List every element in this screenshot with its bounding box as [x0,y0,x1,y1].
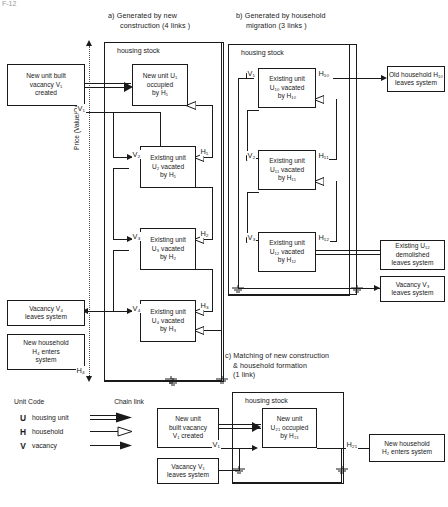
panel-c-housing-stock-label: housing stock [243,397,290,404]
panel-b-outer-rail-top [228,44,357,45]
box-line: U₃ vacated [152,245,184,253]
box-a-new-unit-built: New unit built vacancy V₁ created [7,64,85,106]
legend-label-u: housing unit [32,414,90,421]
box-line: leaves system [25,313,67,321]
line-c-h21-right [317,448,369,449]
label-b-v2: V₂ [247,151,256,160]
box-line: Old household H₁₀ [389,71,443,79]
line-b-v2-rail-h1 [247,110,259,111]
box-b-u12: Existing unit U₁₂ vacated by H₁₂ [258,232,316,272]
box-b-old-household: Old household H₁₀ leaves system [387,66,445,92]
box-line: Vacancy V₁ [171,463,204,471]
box-a-u3: Existing unit U₃ vacated by H₂ [140,228,196,270]
panel-b-title-line1: b) Generated by household [236,11,386,21]
label-b-h12: H₁₂ [318,233,330,242]
legend-unit-code-header: Unit Code [14,398,44,405]
box-b-u11: Existing unit U₁₁ vacated by H₁₁ [258,150,316,190]
panel-b-title: b) Generated by household migration (3 l… [236,11,386,30]
legend-row-u: U housing unit [14,412,154,423]
line-c-h21-down [341,448,342,482]
line-a-h2-h-top [196,187,213,188]
legend-row-h: H household [14,426,154,437]
box-line: by H₃ [160,325,176,333]
box-line: Existing unit [269,239,305,247]
box-line: Vacancy V₄ [29,305,63,313]
label-c-v1: V₁ [212,440,220,449]
box-line: U₂₁ occupied [271,424,309,432]
line-a-h2-h-bot [203,239,213,240]
box-line: New unit built [26,72,66,80]
link-b-u12-demolished [316,250,380,255]
line-a-rail1 [113,112,114,158]
label-b-v3: V₃ [247,233,256,242]
arrow-c-v1-right-icon [252,445,258,451]
box-a-new-household: New household H₄ enters system [7,334,85,370]
panel-c-title-line1: c) Matching of new construction [225,351,405,361]
box-line: U₄ vacated [152,317,184,325]
price-axis-arrow-icon [86,40,92,46]
legend-code-h: H [14,427,32,437]
box-line: U₂ vacated [152,163,184,171]
arrow-c-unit-to-u21-icon [252,422,261,432]
legend-code-u: U [14,413,32,423]
line-b-h11-chain [336,181,337,241]
box-line: New unit [175,415,201,423]
box-line: Vacancy V₃ [396,281,430,289]
box-line: Existing unit [150,236,186,244]
line-a-h3-h-bot [203,311,213,312]
label-a-h2: H₂ [200,229,209,238]
price-axis-dotted-line [89,46,90,380]
box-line: H₄ enters [32,348,60,356]
label-a-v4: V₄ [132,304,141,313]
legend-solid-arrow-icon [90,440,134,451]
label-c-h21: H₂₁ [346,440,358,449]
box-line: by H₁ [160,171,176,179]
figure-corner-mark: F-12 [2,0,16,7]
box-line: by H₁₂ [278,256,296,264]
box-line: leaves system [167,471,209,479]
line-a-h3-h-top [196,269,213,270]
box-line: New household [384,440,429,448]
box-line: Existing unit [269,75,305,83]
line-a-h4-into-u4 [203,330,222,331]
legend-hollow-arrow-icon [90,426,134,437]
box-line: U₁₁ vacated [270,166,304,174]
box-b-demolished: Existing U₁₂ demolished leaves system [380,240,445,270]
box-line: New household [23,339,68,347]
box-line: leaves system [392,289,434,297]
box-line: created [35,89,57,97]
box-line: system [36,356,57,364]
line-a-v1-right [86,112,160,113]
panel-c-title-line3: (1 link) [225,370,405,380]
label-b-h11: H₁₁ [318,151,329,160]
box-line: H₂ enters system [382,448,432,456]
line-a-u2-v3-down [113,168,114,240]
label-a-v2: V₂ [132,150,141,159]
ground-symbol-b2-icon [349,285,365,294]
box-b-u10: Existing unit U₁₀ vacated by H₁₀ [258,68,316,108]
panel-a-title-line2: construction (4 links ) [108,21,228,31]
box-line: by H₁ [152,89,168,97]
ground-symbol-c3-icon [165,378,181,387]
legend-row-v: V vacancy [14,440,154,451]
box-line: Existing unit [269,157,305,165]
box-line: by H₂₁ [280,432,298,440]
legend-code-v: V [14,441,32,451]
box-line: U₁₂ vacated [270,248,304,256]
box-c-new-household: New household H₂ enters system [369,434,445,462]
legend-label-v: vacancy [32,442,90,449]
box-line: vacancy V₁ [30,81,63,89]
box-c-new-unit-built: New unit built vacancy V₁ created [157,408,219,448]
line-b-v3-rail-h1 [247,192,259,193]
box-line: demolished [396,251,430,259]
box-line: Existing U₁₂ [395,242,429,250]
box-line: Existing unit [150,308,186,316]
box-line: leaves system [395,79,437,87]
panel-c-title: c) Matching of new construction & househ… [225,351,405,380]
box-line: New unit U₁ [143,72,177,80]
legend: Unit Code Chain link U housing unit H ho… [14,398,154,451]
label-b-h10: H₁₀ [318,69,330,78]
box-line: by H₁₀ [278,92,297,100]
box-a-u4: Existing unit U₄ vacated by H₃ [140,300,196,342]
legend-double-line-arrow-icon [90,412,134,423]
